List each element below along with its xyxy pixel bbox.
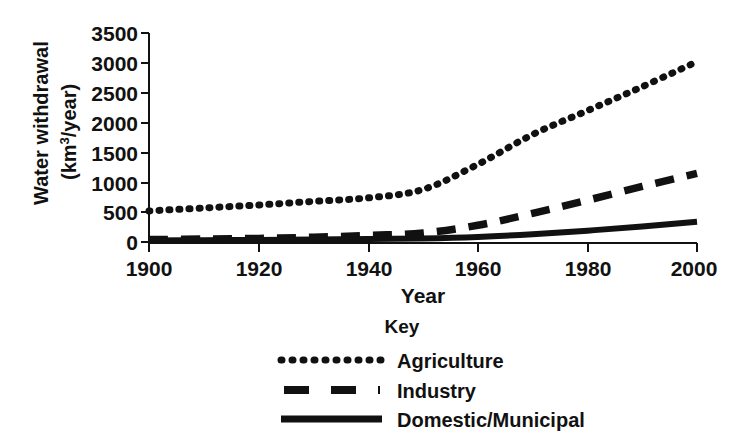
x-tick-labels: 1900 1920 1940 1960 1980 2000 bbox=[126, 257, 718, 280]
legend-label-agriculture: Agriculture bbox=[397, 350, 504, 372]
legend-label-domestic-municipal: Domestic/Municipal bbox=[397, 409, 585, 431]
legend-item-domestic-municipal[interactable]: Domestic/Municipal bbox=[281, 409, 585, 431]
y-axis-title-line2: (km3/year) bbox=[57, 84, 80, 180]
legend-item-agriculture[interactable]: Agriculture bbox=[281, 350, 504, 372]
y-tick-label: 3500 bbox=[91, 22, 138, 45]
y-tick-label: 2000 bbox=[91, 112, 138, 135]
series-line-agriculture bbox=[149, 62, 697, 211]
y-tick-labels: 3500 3000 2500 2000 1500 1000 500 0 bbox=[91, 22, 138, 254]
y-tick-label: 500 bbox=[103, 201, 138, 224]
x-tick-label: 1920 bbox=[236, 257, 283, 280]
x-tick-label: 1900 bbox=[126, 257, 173, 280]
legend-label-industry: Industry bbox=[397, 380, 477, 402]
x-tick-label: 1980 bbox=[565, 257, 612, 280]
x-axis bbox=[149, 243, 697, 252]
plot-series-group bbox=[149, 62, 697, 241]
legend: Key Agriculture Industry Domestic/Munici… bbox=[281, 316, 585, 431]
y-axis-title: Water withdrawal (km3/year) bbox=[30, 41, 80, 205]
chart-figure: Water withdrawal (km3/year) 3500 3000 25… bbox=[0, 0, 745, 445]
y-tick-label: 1500 bbox=[91, 142, 138, 165]
y-tick-label: 2500 bbox=[91, 82, 138, 105]
y-axis-unit-exponent: 3 bbox=[57, 137, 72, 144]
x-tick-label: 1960 bbox=[455, 257, 502, 280]
legend-title: Key bbox=[385, 316, 420, 337]
y-axis-unit-prefix: (km bbox=[58, 144, 80, 180]
y-tick-label: 0 bbox=[126, 231, 138, 254]
x-axis-title: Year bbox=[401, 284, 445, 307]
y-tick-label: 1000 bbox=[91, 172, 138, 195]
y-axis-unit-suffix: /year) bbox=[58, 84, 80, 137]
x-tick-label: 2000 bbox=[671, 257, 718, 280]
legend-item-industry[interactable]: Industry bbox=[284, 380, 477, 402]
y-axis-title-line1: Water withdrawal bbox=[30, 41, 52, 205]
water-withdrawal-line-chart: Water withdrawal (km3/year) 3500 3000 25… bbox=[0, 0, 745, 445]
x-tick-label: 1940 bbox=[346, 257, 393, 280]
y-tick-label: 3000 bbox=[91, 52, 138, 75]
